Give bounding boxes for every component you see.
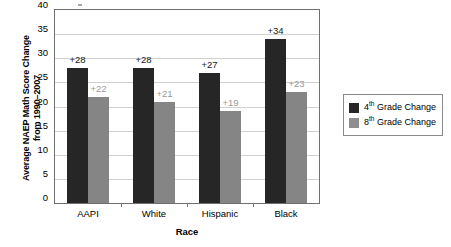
x-axis-tick-label-hispanic: Hispanic bbox=[202, 208, 238, 220]
y-axis-tick-label: 35 bbox=[28, 24, 48, 34]
x-axis-tick-label-black: Black bbox=[274, 208, 297, 220]
y-axis-tick-label: 30 bbox=[28, 48, 48, 58]
y-axis-tick-label: 15 bbox=[28, 121, 48, 131]
bar-group: +34+23 bbox=[265, 10, 307, 203]
legend-swatch-icon bbox=[349, 118, 359, 128]
chart-legend: 4th Grade Change8th Grade Change bbox=[343, 94, 443, 136]
bar-value-label: +28 bbox=[69, 55, 85, 65]
bar-black-series-2[interactable] bbox=[286, 92, 307, 203]
bar-aapi-series-2[interactable] bbox=[88, 97, 109, 203]
legend-label: 8th Grade Change bbox=[364, 117, 436, 128]
bar-group: +28+22 bbox=[67, 10, 109, 203]
bar-hispanic-series-1[interactable] bbox=[199, 73, 220, 203]
x-axis-tick-mark bbox=[121, 203, 122, 207]
bar-value-label: +28 bbox=[135, 55, 151, 65]
y-axis-tick-labels: 0510152025303540 bbox=[28, 4, 48, 208]
x-axis-tick-labels: AAPIWhiteHispanicBlack bbox=[54, 208, 320, 222]
y-axis-tick-label: 5 bbox=[28, 169, 48, 179]
bar-value-label: +21 bbox=[156, 89, 172, 99]
x-axis-tick-mark bbox=[187, 203, 188, 207]
legend-item-series-2[interactable]: 8th Grade Change bbox=[349, 115, 436, 130]
bar-value-label: +19 bbox=[222, 98, 238, 108]
bar-white-series-1[interactable] bbox=[133, 68, 154, 203]
x-axis-tick-mark bbox=[253, 203, 254, 207]
bar-aapi-series-1[interactable] bbox=[67, 68, 88, 203]
bar-chart-figure: Average NAEP Math Score Change from 1990… bbox=[0, 0, 451, 247]
y-axis-tick-label: 25 bbox=[28, 72, 48, 82]
y-axis-tick-label: 0 bbox=[28, 193, 48, 203]
x-axis-title: Race bbox=[54, 226, 320, 238]
bar-value-label: +23 bbox=[288, 79, 304, 89]
bar-value-label: +34 bbox=[267, 26, 283, 36]
legend-item-series-1[interactable]: 4th Grade Change bbox=[349, 100, 436, 115]
y-axis-tick-label: 20 bbox=[28, 97, 48, 107]
bar-black-series-1[interactable] bbox=[265, 39, 286, 203]
y-axis-tick-label: 10 bbox=[28, 145, 48, 155]
bar-hispanic-series-2[interactable] bbox=[220, 111, 241, 203]
x-axis-tick-label-aapi: AAPI bbox=[77, 208, 99, 220]
bar-white-series-2[interactable] bbox=[154, 102, 175, 203]
bar-value-label: +22 bbox=[90, 84, 106, 94]
bar-value-label: +27 bbox=[201, 60, 217, 70]
legend-label: 4th Grade Change bbox=[364, 102, 436, 113]
y-axis-tick-mark bbox=[78, 5, 82, 6]
bar-group: +27+19 bbox=[199, 10, 241, 203]
bar-group: +28+21 bbox=[133, 10, 175, 203]
x-axis-tick-label-white: White bbox=[142, 208, 166, 220]
legend-swatch-icon bbox=[349, 103, 359, 113]
y-axis-tick-label: 40 bbox=[28, 0, 48, 10]
plot-area: +28+22+28+21+27+19+34+23 bbox=[54, 9, 320, 204]
